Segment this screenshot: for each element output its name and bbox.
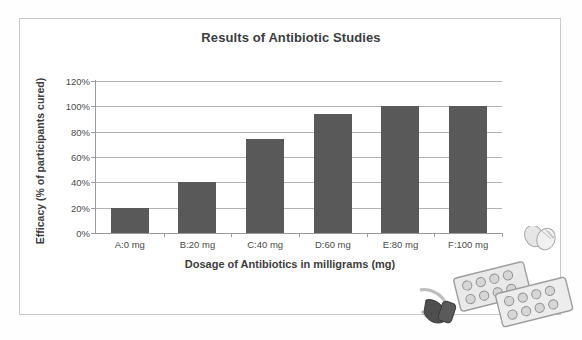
bar-slot bbox=[367, 81, 435, 233]
x-axis-tick-mark bbox=[299, 233, 300, 237]
x-axis-tick-label: C:40 mg bbox=[247, 239, 283, 250]
x-axis-tick-label: D:60 mg bbox=[315, 239, 351, 250]
x-axis-tick-label: E:80 mg bbox=[383, 239, 418, 250]
bar[interactable] bbox=[178, 182, 216, 233]
x-axis-tick-mark bbox=[434, 233, 435, 237]
y-axis-tick-mark bbox=[91, 182, 95, 183]
plot-inner bbox=[96, 81, 502, 233]
screenshot-canvas: Results of Antibiotic Studies Efficacy (… bbox=[0, 0, 582, 340]
y-axis-tick-mark bbox=[91, 132, 95, 133]
bar[interactable] bbox=[111, 208, 149, 233]
x-axis-tick-label: A:0 mg bbox=[115, 239, 145, 250]
y-axis-tick-mark bbox=[91, 81, 95, 82]
bar-slot bbox=[299, 81, 367, 233]
x-axis-tick-label: F:100 mg bbox=[448, 239, 488, 250]
y-axis-tick-labels: 0%20%40%60%80%100%120% bbox=[46, 81, 90, 233]
bar[interactable] bbox=[246, 139, 284, 233]
y-axis-tick-mark bbox=[91, 208, 95, 209]
y-axis-tick-label: 120% bbox=[50, 76, 90, 87]
y-axis-tick-label: 100% bbox=[50, 101, 90, 112]
x-axis-tick-mark bbox=[367, 233, 368, 237]
x-axis-tick-mark bbox=[164, 233, 165, 237]
y-axis-tick-mark bbox=[91, 157, 95, 158]
bar-slot bbox=[231, 81, 299, 233]
bar-slot bbox=[434, 81, 502, 233]
x-axis-title: Dosage of Antibiotics in milligrams (mg) bbox=[60, 258, 520, 270]
y-axis-tick-label: 0% bbox=[50, 228, 90, 239]
x-axis-category-labels: A:0 mgB:20 mgC:40 mgD:60 mgE:80 mgF:100 … bbox=[96, 239, 502, 253]
x-axis-tick-mark bbox=[231, 233, 232, 237]
bar-slot bbox=[96, 81, 164, 233]
chart-title: Results of Antibiotic Studies bbox=[0, 30, 582, 45]
y-axis-tick-label: 40% bbox=[50, 177, 90, 188]
bar[interactable] bbox=[449, 106, 487, 233]
x-axis-tick-mark bbox=[502, 233, 503, 237]
plot-area bbox=[96, 81, 502, 233]
y-axis-tick-mark bbox=[91, 106, 95, 107]
y-axis-tick-label: 60% bbox=[50, 152, 90, 163]
bar-slot bbox=[164, 81, 232, 233]
y-axis-tick-label: 80% bbox=[50, 126, 90, 137]
bar[interactable] bbox=[381, 106, 419, 233]
x-axis-tick-label: B:20 mg bbox=[180, 239, 215, 250]
y-axis-tick-label: 20% bbox=[50, 202, 90, 213]
bar[interactable] bbox=[314, 114, 352, 233]
y-axis-title: Efficacy (% of participants cured) bbox=[34, 66, 46, 256]
y-axis-tick-mark bbox=[91, 233, 95, 234]
